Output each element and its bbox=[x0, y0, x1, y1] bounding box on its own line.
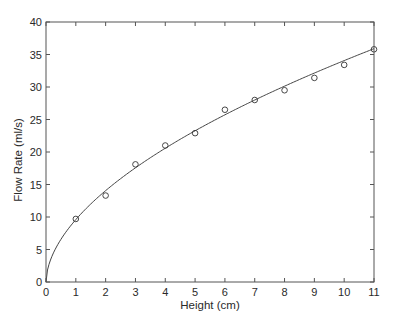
x-tick-label: 3 bbox=[132, 286, 138, 298]
x-tick-label: 2 bbox=[103, 286, 109, 298]
x-tick-label: 8 bbox=[281, 286, 287, 298]
y-tick-label: 40 bbox=[30, 16, 42, 28]
x-tick-label: 0 bbox=[43, 286, 49, 298]
x-tick-label: 6 bbox=[222, 286, 228, 298]
axis-ticks bbox=[46, 22, 374, 282]
data-point-marker bbox=[162, 143, 168, 149]
y-tick-label: 5 bbox=[36, 244, 42, 256]
x-tick-label: 11 bbox=[368, 286, 379, 298]
data-point-marker bbox=[341, 62, 347, 68]
y-tick-label: 0 bbox=[36, 276, 42, 288]
data-point-marker bbox=[222, 107, 228, 113]
y-axis-label: Flow Rate (ml/s) bbox=[12, 118, 24, 202]
data-point-marker bbox=[103, 193, 109, 199]
x-tick-label: 1 bbox=[73, 286, 79, 298]
y-tick-label: 20 bbox=[30, 146, 42, 158]
data-point-marker bbox=[133, 162, 139, 168]
x-tick-label: 9 bbox=[311, 286, 317, 298]
fit-curve bbox=[46, 49, 374, 282]
y-tick-label: 15 bbox=[30, 179, 42, 191]
x-tick-labels: 01234567891011 bbox=[43, 286, 380, 298]
data-point-marker bbox=[312, 75, 318, 81]
chart: 01234567891011 0510152025303540 Height (… bbox=[0, 0, 397, 320]
fit-line bbox=[46, 49, 374, 282]
y-tick-label: 35 bbox=[30, 49, 42, 61]
y-tick-label: 10 bbox=[30, 211, 42, 223]
x-tick-label: 7 bbox=[252, 286, 258, 298]
x-tick-label: 5 bbox=[192, 286, 198, 298]
data-point-marker bbox=[282, 87, 288, 93]
plot-frame bbox=[46, 22, 374, 282]
y-tick-label: 30 bbox=[30, 81, 42, 93]
x-axis-label: Height (cm) bbox=[180, 299, 240, 311]
x-tick-label: 10 bbox=[338, 286, 350, 298]
y-tick-labels: 0510152025303540 bbox=[30, 16, 42, 288]
data-points bbox=[73, 47, 377, 222]
y-tick-label: 25 bbox=[30, 114, 42, 126]
x-tick-label: 4 bbox=[162, 286, 168, 298]
